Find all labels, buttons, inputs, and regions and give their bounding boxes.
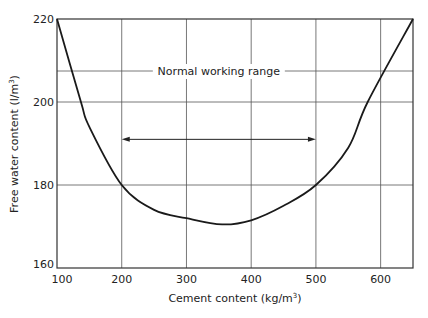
x-tick-label: 600	[370, 273, 391, 286]
x-tick-label: 100	[52, 273, 73, 286]
y-axis-title: Free water content (l/m3)	[8, 75, 21, 213]
chart: Normal working range 100200300400500600 …	[0, 0, 428, 318]
plot-frame	[57, 19, 413, 268]
arrow-right-icon	[308, 137, 316, 142]
y-tick-label: 180	[33, 179, 54, 192]
x-tick-labels: 100200300400500600	[52, 273, 392, 286]
y-tick-label: 160	[33, 258, 54, 271]
x-tick-label: 400	[241, 273, 262, 286]
x-tick-label: 300	[176, 273, 197, 286]
water-content-curve	[57, 19, 413, 224]
chart-canvas: Normal working range 100200300400500600 …	[0, 0, 428, 318]
gridlines	[57, 19, 413, 268]
x-tick-label: 200	[111, 273, 132, 286]
y-tick-labels: 160180200220	[33, 13, 54, 271]
normal-working-range-annotation: Normal working range	[122, 64, 316, 142]
x-axis-title: Cement content (kg/m3)	[168, 292, 301, 305]
x-tick-label: 500	[305, 273, 326, 286]
annotation-label: Normal working range	[158, 65, 281, 78]
y-tick-label: 220	[33, 13, 54, 26]
y-tick-label: 200	[33, 96, 54, 109]
arrow-left-icon	[122, 137, 130, 142]
